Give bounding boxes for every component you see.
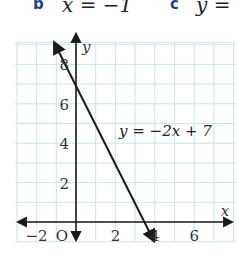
x-tick-label: −2 bbox=[26, 227, 48, 245]
equation-label: y = −2x + 7 bbox=[118, 122, 212, 140]
y-tick-label: 4 bbox=[59, 135, 69, 153]
x-tick-label: 6 bbox=[189, 227, 199, 245]
y-tick-label: 8 bbox=[59, 56, 69, 74]
y-tick-label: 2 bbox=[59, 175, 69, 193]
line-y-equals-neg2x-plus-7 bbox=[54, 43, 154, 241]
origin-label: O bbox=[56, 227, 68, 245]
y-tick-label: 6 bbox=[59, 96, 69, 114]
x-tick-label: 2 bbox=[111, 227, 121, 245]
x-tick-label: 4 bbox=[150, 227, 160, 245]
graph: −22462468Oxyy = −2x + 7 bbox=[0, 0, 237, 260]
grid-lines bbox=[15, 43, 236, 242]
x-axis-label: x bbox=[221, 202, 230, 220]
y-axis-label: y bbox=[81, 38, 91, 56]
line-series bbox=[54, 43, 154, 241]
